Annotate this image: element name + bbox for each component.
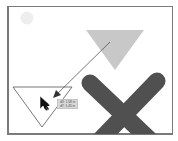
tooltip-dy: dY: 1.45 in: [60, 104, 75, 108]
move-arrow-cursor-icon: [40, 96, 50, 111]
x-shape[interactable]: [90, 81, 157, 140]
artwork-layer: [0, 0, 178, 141]
circle-shape[interactable]: [21, 12, 34, 25]
move-tooltip: dX: 1.58 in dY: 1.45 in: [57, 99, 78, 109]
gray-triangle-shape[interactable]: [86, 30, 144, 70]
